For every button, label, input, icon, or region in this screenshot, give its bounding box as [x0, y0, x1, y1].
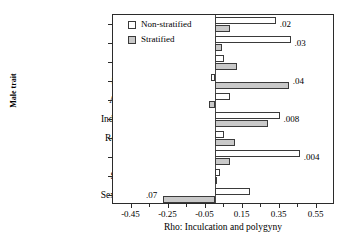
y-axis-tick — [108, 157, 113, 158]
legend-label-non-stratified: Non-stratified — [141, 20, 191, 29]
bar-fortitude-non-stratified — [215, 17, 276, 24]
bar-industriousness-non-stratified — [215, 112, 280, 119]
p-value-label-fortitude: .02 — [280, 20, 291, 29]
y-axis-tick — [108, 176, 113, 177]
chart-legend: Non-stratified Stratified — [128, 18, 220, 48]
p-value-label-obedience: .004 — [304, 153, 320, 162]
bar-responsibility-stratified — [215, 139, 235, 146]
x-axis-tick-major — [168, 204, 169, 208]
bar-self-restraint-stratified — [215, 177, 217, 184]
y-axis-tick — [108, 43, 113, 44]
legend-swatch-stratified — [128, 36, 136, 44]
y-axis-tick — [108, 195, 113, 196]
y-axis-tick — [108, 62, 113, 63]
p-value-label-self-reliance: .04 — [293, 77, 304, 86]
legend-swatch-non-stratified — [128, 21, 136, 29]
x-axis-title: Rho: Inculcation and polygyny — [112, 222, 334, 232]
bar-self-restraint-non-stratified — [215, 169, 221, 176]
x-axis-tick-minor — [260, 204, 261, 207]
y-axis-tick — [108, 24, 113, 25]
bar-obedience-stratified — [215, 158, 230, 165]
y-axis-tick — [108, 81, 113, 82]
x-axis-tick-label-2: -0.05 — [185, 209, 225, 219]
p-value-label-sexual-restraint: .07 — [146, 191, 157, 200]
chart-figure: Male trait FortitudeAggressionCompetitio… — [0, 0, 344, 244]
x-axis-tick-minor — [297, 204, 298, 207]
x-axis-tick-major — [205, 204, 206, 208]
bar-achievement-non-stratified — [215, 93, 230, 100]
bar-sexual-restraint-non-stratified — [215, 188, 250, 195]
x-axis-tick-major — [279, 204, 280, 208]
bar-self-reliance-stratified — [215, 82, 289, 89]
x-axis-tick-labels: -0.45-0.25-0.050.150.350.55 — [112, 209, 334, 221]
x-axis-tick-label-3: 0.15 — [222, 209, 262, 219]
x-axis-tick-major — [242, 204, 243, 208]
bar-competition-stratified — [215, 63, 237, 70]
y-axis-tick — [108, 100, 113, 101]
x-axis-tick-label-1: -0.25 — [148, 209, 188, 219]
bar-sexual-restraint-stratified — [163, 196, 215, 203]
bar-aggression-non-stratified — [215, 36, 291, 43]
bar-obedience-non-stratified — [215, 150, 300, 157]
y-axis-tick — [108, 119, 113, 120]
x-axis-tick-minor — [223, 204, 224, 207]
x-axis-tick-minor — [186, 204, 187, 207]
bar-achievement-stratified — [209, 101, 215, 108]
bar-competition-non-stratified — [215, 55, 224, 62]
x-axis-tick-major — [316, 204, 317, 208]
legend-item-stratified: Stratified — [128, 33, 220, 46]
legend-item-non-stratified: Non-stratified — [128, 18, 220, 31]
x-axis-tick-label-0: -0.45 — [111, 209, 151, 219]
y-axis-tick — [108, 138, 113, 139]
x-axis-tick-major — [131, 204, 132, 208]
p-value-label-industriousness: .008 — [284, 115, 300, 124]
p-value-label-aggression: .03 — [295, 39, 306, 48]
x-axis-tick-label-5: 0.55 — [296, 209, 336, 219]
x-axis-tick-minor — [149, 204, 150, 207]
bar-self-reliance-non-stratified — [211, 74, 215, 81]
x-axis-tick-label-4: 0.35 — [259, 209, 299, 219]
bar-industriousness-stratified — [215, 120, 269, 127]
legend-label-stratified: Stratified — [141, 35, 175, 44]
bar-responsibility-non-stratified — [215, 131, 224, 138]
